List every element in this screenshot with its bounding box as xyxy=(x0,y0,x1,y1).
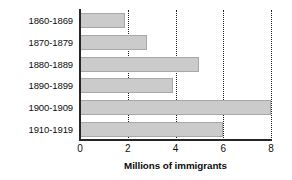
x-axis-title: Millions of immigrants xyxy=(80,160,271,171)
x-axis-tick-label: 6 xyxy=(220,143,226,154)
x-axis-tick-label: 8 xyxy=(268,143,274,154)
bar-series xyxy=(80,10,271,140)
gridline-8 xyxy=(271,10,272,140)
y-axis-tick-1870-1879: 1870-1879 xyxy=(0,32,78,54)
bar-row xyxy=(80,118,271,140)
y-axis-tick-label: 1900-1909 xyxy=(28,102,73,113)
y-axis-category-labels: 1860-1869 1870-1879 1880-1889 1890-1899 … xyxy=(0,10,78,140)
bar xyxy=(80,100,271,115)
bar-row xyxy=(80,97,271,119)
bar-row xyxy=(80,75,271,97)
x-axis-tick-label: 4 xyxy=(173,143,179,154)
x-axis-tick-label: 2 xyxy=(125,143,131,154)
y-axis-tick-1880-1889: 1880-1889 xyxy=(0,53,78,75)
y-axis-tick-1860-1869: 1860-1869 xyxy=(0,10,78,32)
bar xyxy=(80,57,199,72)
y-axis-line xyxy=(79,9,81,141)
bar-row xyxy=(80,32,271,54)
immigration-bar-chart: 1860-1869 1870-1879 1880-1889 1890-1899 … xyxy=(0,0,292,180)
y-axis-tick-1910-1919: 1910-1919 xyxy=(0,118,78,140)
bar xyxy=(80,35,147,50)
y-axis-tick-label: 1880-1889 xyxy=(28,59,73,70)
bar xyxy=(80,78,173,93)
y-axis-tick-1890-1899: 1890-1899 xyxy=(0,75,78,97)
y-axis-tick-label: 1860-1869 xyxy=(28,15,73,26)
y-axis-tick-label: 1870-1879 xyxy=(28,37,73,48)
y-axis-tick-label: 1910-1919 xyxy=(28,124,73,135)
x-axis-line xyxy=(79,139,272,141)
bar-row xyxy=(80,53,271,75)
bar xyxy=(80,13,125,28)
bar xyxy=(80,122,223,137)
bar-row xyxy=(80,10,271,32)
plot-area xyxy=(80,10,271,140)
x-axis-tick-label: 0 xyxy=(77,143,83,154)
y-axis-tick-1900-1909: 1900-1909 xyxy=(0,97,78,119)
y-axis-tick-label: 1890-1899 xyxy=(28,80,73,91)
